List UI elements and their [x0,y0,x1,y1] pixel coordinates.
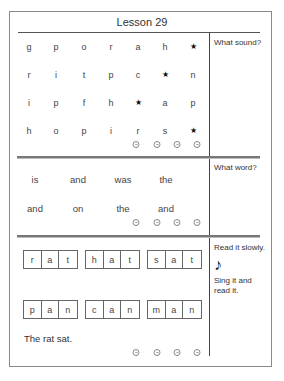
title-divider [18,32,260,33]
word-box-letter: s [148,251,166,268]
word-box-letter: a [42,301,60,318]
word-box-letter: a [166,251,184,268]
words-prompt: What word? [214,163,257,173]
smiley-face-icon [174,141,181,148]
sound-letter: g [26,42,31,52]
sight-word: the [159,174,172,185]
section-divider-1 [17,156,260,159]
smiley-face-icon [133,141,140,148]
sight-word: on [73,203,84,214]
smiley-face-icon [154,349,161,356]
sound-letter: a [162,98,167,108]
word-box-letter: h [86,251,104,268]
smiley-face-icon [154,141,161,148]
star-icon: ★ [162,70,169,79]
word-box: hat [85,250,140,269]
music-note-icon: ♪ [214,256,222,274]
sound-letter: p [81,126,86,136]
word-box-letter: r [24,251,42,268]
reading-prompt: Read it slowly. [214,243,265,253]
sentence: The rat sat. [24,333,72,344]
sound-letter: t [83,70,86,80]
word-box-letter: c [86,301,104,318]
word-box-letter: a [42,251,60,268]
word-box: can [85,300,140,319]
word-box-letter: t [59,251,77,268]
section-divider-2 [17,235,260,238]
sight-word: and [158,203,174,214]
sight-word: and [70,174,86,185]
word-box: man [147,300,202,319]
sound-letter: c [136,70,141,80]
sound-letter: r [28,70,31,80]
sound-letter: s [163,126,168,136]
sound-letter: r [110,42,113,52]
word-box-letter: n [183,301,201,318]
sight-word: was [115,174,132,185]
sound-letter: o [53,126,58,136]
sound-letter: i [110,126,112,136]
smiley-face-icon [174,349,181,356]
word-box-letter: a [104,251,122,268]
smiley-face-icon [174,219,181,226]
sound-letter: o [81,42,86,52]
word-box-letter: n [121,301,139,318]
star-icon: ★ [190,42,197,51]
word-box: sat [147,250,202,269]
sound-letter: h [108,98,113,108]
word-box: pan [23,300,78,319]
word-box: rat [23,250,78,269]
sounds-prompt: What sound? [214,38,261,48]
sound-letter: a [135,42,140,52]
words-column-divider [209,159,210,236]
sounds-column-divider [209,33,210,157]
sound-letter: p [53,42,58,52]
sound-letter: h [162,42,167,52]
word-box-letter: n [59,301,77,318]
sing-prompt: Sing it and read it. [214,276,270,296]
sound-letter: i [55,70,57,80]
sound-letter: r [137,126,140,136]
smiley-face-icon [194,349,201,356]
star-icon: ★ [135,98,142,107]
smiley-face-icon [133,349,140,356]
sight-word: is [32,174,39,185]
word-box-letter: p [24,301,42,318]
word-box-letter: a [104,301,122,318]
smiley-face-icon [194,219,201,226]
star-icon: ★ [190,126,197,135]
sound-letter: p [190,98,195,108]
word-box-letter: t [183,251,201,268]
word-box-letter: a [166,301,184,318]
smiley-face-icon [133,219,140,226]
sound-letter: n [190,70,195,80]
sound-letter: i [28,98,30,108]
lesson-title: Lesson 29 [0,16,284,28]
reading-column-divider [209,238,210,356]
sound-letter: f [83,98,86,108]
word-box-letter: t [121,251,139,268]
smiley-face-icon [154,219,161,226]
sound-letter: h [26,126,31,136]
word-box-letter: m [148,301,166,318]
sight-word: and [27,203,43,214]
smiley-face-icon [194,141,201,148]
sound-letter: p [53,98,58,108]
sight-word: the [116,203,129,214]
sound-letter: p [108,70,113,80]
